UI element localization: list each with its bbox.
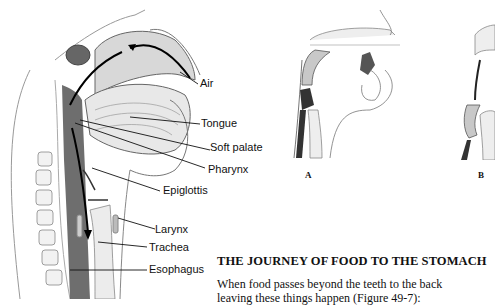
label-soft-palate: Soft palate (210, 142, 263, 153)
sub-figure-a-illustration (290, 10, 400, 160)
section-paragraph: When food passes beyond the teeth to the… (217, 277, 442, 305)
label-pharynx: Pharynx (208, 164, 248, 175)
sub-figure-a-label: A (305, 170, 312, 180)
label-epiglottis: Epiglottis (163, 185, 208, 196)
label-trachea: Trachea (149, 242, 189, 253)
label-air: Air (200, 78, 213, 89)
sub-figure-b-illustration (455, 20, 495, 160)
sub-figure-b-label: B (478, 170, 484, 180)
paragraph-line-2: leaving these things happen (Figure 49-7… (217, 291, 442, 305)
label-esophagus: Esophagus (149, 264, 204, 275)
label-larynx: Larynx (155, 224, 188, 235)
section-heading: THE JOURNEY OF FOOD TO THE STOMACH (217, 254, 487, 269)
paragraph-line-1: When food passes beyond the teeth to the… (217, 277, 442, 291)
label-tongue: Tongue (201, 118, 237, 129)
